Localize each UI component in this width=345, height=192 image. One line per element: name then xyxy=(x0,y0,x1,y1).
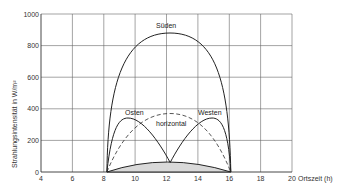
grid xyxy=(41,14,292,172)
svg-text:10: 10 xyxy=(131,175,139,182)
label-horizontal: horizontal xyxy=(156,120,187,127)
svg-text:14: 14 xyxy=(194,175,202,182)
svg-text:18: 18 xyxy=(257,175,265,182)
svg-text:12: 12 xyxy=(163,175,171,182)
label-westen: Westen xyxy=(198,109,222,116)
svg-text:8: 8 xyxy=(102,175,106,182)
svg-text:4: 4 xyxy=(39,175,43,182)
y-tick-labels: 0 200 400 600 800 1000 xyxy=(23,11,39,176)
x-axis-label: Ortszeit (h) xyxy=(298,175,333,183)
svg-text:20: 20 xyxy=(288,175,296,182)
svg-text:1000: 1000 xyxy=(23,11,39,18)
label-osten: Osten xyxy=(125,109,144,116)
series-sueden xyxy=(107,33,231,172)
x-tick-labels: 4 6 8 10 12 14 16 18 20 xyxy=(39,175,296,182)
radiation-chart: Süden Osten Westen horizontal 0 200 400 … xyxy=(0,0,345,192)
svg-text:400: 400 xyxy=(27,105,39,112)
svg-text:600: 600 xyxy=(27,74,39,81)
svg-text:800: 800 xyxy=(27,42,39,49)
y-axis-label: Strahlungsintensität in W/m² xyxy=(11,80,19,168)
svg-text:16: 16 xyxy=(225,175,233,182)
series-norden xyxy=(107,162,231,172)
label-sueden: Süden xyxy=(156,22,176,29)
svg-text:200: 200 xyxy=(27,137,39,144)
svg-text:6: 6 xyxy=(70,175,74,182)
